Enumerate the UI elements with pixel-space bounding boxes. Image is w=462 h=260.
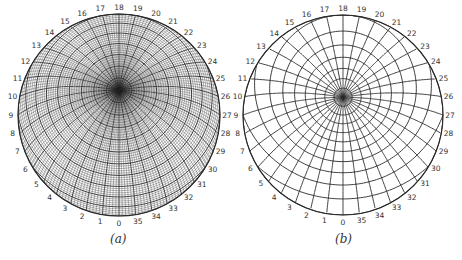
rim-label: 19	[357, 5, 367, 14]
rim-label: 1	[322, 216, 327, 225]
rim-label: 28	[221, 129, 231, 138]
meridian-line	[311, 21, 343, 98]
rim-label: 31	[420, 179, 430, 188]
rim-label: 30	[431, 164, 441, 173]
figure-stereographic-nets: STEREOGRAPHIC NETS 53 012345678910111213…	[0, 0, 462, 260]
rim-label: 0	[117, 219, 122, 228]
rim-label: 26	[444, 92, 454, 101]
rim-label: 32	[407, 193, 417, 202]
net-a	[18, 14, 220, 216]
rim-label: 20	[151, 9, 161, 18]
rim-label: 15	[285, 18, 295, 27]
rim-label: 16	[302, 10, 312, 19]
rim-label: 4	[272, 193, 277, 202]
net-b	[243, 15, 443, 215]
rim-label: 21	[392, 18, 402, 27]
rim-label: 17	[95, 4, 105, 13]
rim-label: 13	[32, 41, 42, 50]
rim-label: 24	[208, 57, 218, 66]
rim-label: 6	[23, 165, 28, 174]
rim-label: 13	[256, 42, 266, 51]
rim-label: 16	[77, 9, 87, 18]
rim-label: 32	[184, 193, 194, 202]
rim-label: 11	[13, 74, 23, 83]
rim-label: 23	[197, 41, 207, 50]
rim-label: 17	[320, 5, 330, 14]
rim-label: 2	[80, 212, 85, 221]
rim-label: 14	[45, 28, 55, 37]
meridian-line	[343, 49, 416, 97]
rim-label: 27	[445, 111, 455, 120]
rim-label: 29	[439, 147, 449, 156]
rim-label: 33	[392, 203, 402, 212]
rim-label: 23	[420, 42, 430, 51]
rim-label: 8	[10, 129, 15, 138]
rim-label: 12	[246, 57, 256, 66]
rim-label: 31	[197, 180, 207, 189]
rim-label: 21	[168, 17, 178, 26]
rim-label: 19	[133, 4, 143, 13]
rim-label: 5	[259, 179, 264, 188]
rim-label: 6	[248, 164, 253, 173]
rim-label: 18	[338, 4, 348, 13]
rim-label: 3	[63, 204, 68, 213]
rim-label: 10	[8, 92, 18, 101]
rim-label: 1	[98, 217, 103, 226]
rim-label: 12	[21, 57, 31, 66]
rim-label: 0	[341, 218, 346, 227]
meridian-line	[119, 90, 122, 215]
rim-label: 8	[235, 129, 240, 138]
rim-label: 7	[15, 147, 20, 156]
equal-area-net-a: 0123456789101112131415161718192021222324…	[0, 0, 462, 260]
rim-label: 30	[208, 165, 218, 174]
rim-label: 9	[234, 111, 239, 120]
meridian-line	[343, 21, 375, 98]
rim-label: 27	[222, 111, 232, 120]
rim-label: 22	[407, 29, 417, 38]
rim-label: 20	[375, 10, 385, 19]
meridian-line	[116, 90, 119, 215]
rim-label: 25	[439, 74, 449, 83]
rim-label: 5	[34, 180, 39, 189]
rim-label: 9	[9, 111, 14, 120]
meridian-line	[343, 28, 390, 98]
rim-label: 24	[431, 57, 441, 66]
rim-label: 22	[184, 28, 194, 37]
rim-label: 7	[240, 147, 245, 156]
rim-label: 26	[221, 92, 231, 101]
rim-label: 34	[151, 212, 161, 221]
rim-label: 11	[238, 74, 248, 83]
meridian-line	[270, 49, 343, 97]
rim-label: 4	[47, 193, 52, 202]
rim-label: 10	[233, 92, 243, 101]
rim-label: 2	[304, 211, 309, 220]
rim-label: 35	[357, 216, 367, 225]
rim-label: 3	[287, 203, 292, 212]
rim-label: 33	[168, 204, 178, 213]
rim-label: 29	[216, 147, 226, 156]
rim-label: 18	[114, 3, 124, 12]
meridian-line	[296, 28, 343, 98]
rim-label: 35	[133, 217, 143, 226]
rim-label: 34	[375, 211, 385, 220]
caption-a: (a)	[110, 232, 127, 246]
caption-b: (b)	[335, 232, 352, 246]
rim-label: 28	[444, 129, 454, 138]
rim-label: 15	[60, 17, 70, 26]
rim-label: 14	[269, 29, 279, 38]
rim-label: 25	[216, 74, 226, 83]
